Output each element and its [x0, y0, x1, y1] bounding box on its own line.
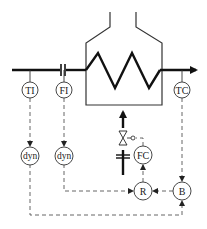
r-label: R [140, 186, 147, 197]
valve-actuator-icon [131, 136, 135, 140]
fuel-line [116, 112, 135, 175]
block-r: R [134, 182, 152, 200]
block-dyn-ti: dyn [21, 147, 39, 165]
dyn1-label: dyn [23, 151, 38, 161]
heating-coil [86, 53, 160, 88]
block-dyn-fi: dyn [55, 147, 73, 165]
process-line [12, 53, 196, 88]
fc-label: FC [137, 150, 150, 161]
instrument-ti: TI [22, 82, 38, 98]
block-b: B [173, 182, 191, 200]
fi-label: FI [60, 85, 69, 96]
signal-fc-valve [136, 138, 143, 146]
instrument-fi: FI [56, 82, 72, 98]
furnace-outline [86, 12, 162, 105]
process-diagram: TI FI TC dyn dyn FC R B [0, 0, 207, 229]
dyn2-label: dyn [57, 151, 72, 161]
instrument-tc: TC [174, 82, 190, 98]
signal-lines [30, 98, 182, 215]
signal-dyn-b [30, 164, 182, 215]
ti-label: TI [25, 85, 34, 96]
controller-fc: FC [134, 146, 152, 164]
furnace [86, 12, 162, 105]
tc-label: TC [176, 85, 189, 96]
b-label: B [179, 186, 186, 197]
